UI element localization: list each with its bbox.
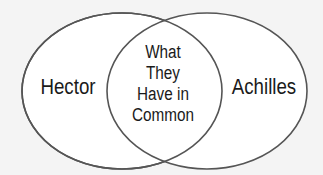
intersection-line: What — [126, 42, 199, 63]
intersection-line: Have in — [126, 84, 199, 105]
left-circle-label: Hector — [36, 74, 101, 100]
intersection-line: They — [126, 63, 199, 84]
intersection-line: Common — [126, 105, 199, 126]
right-circle-label: Achilles — [228, 74, 299, 100]
intersection-label: What They Have in Common — [126, 42, 199, 126]
